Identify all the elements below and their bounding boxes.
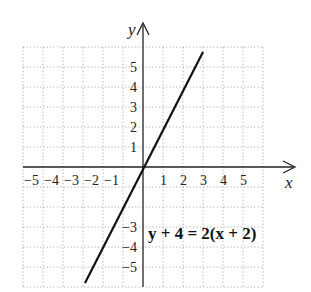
svg-text:5: 5: [240, 173, 247, 188]
svg-text:−5: −5: [24, 173, 39, 188]
svg-text:−5: −5: [122, 260, 137, 275]
svg-text:2: 2: [130, 120, 137, 135]
svg-text:4: 4: [220, 173, 227, 188]
y-axis-label: y: [126, 20, 136, 39]
svg-text:−1: −1: [104, 173, 119, 188]
svg-text:3: 3: [200, 173, 207, 188]
x-axis-label: x: [284, 173, 293, 192]
svg-text:−3: −3: [122, 220, 137, 235]
graph-figure: y x −5 −4 −3 −2 −1 1 2 3 4 5 1 2 3 4 5 −…: [0, 0, 311, 292]
svg-text:1: 1: [160, 173, 167, 188]
equation-label: y + 4 = 2(x + 2): [148, 224, 256, 243]
svg-text:−3: −3: [64, 173, 79, 188]
svg-text:−2: −2: [84, 173, 99, 188]
svg-text:5: 5: [130, 60, 137, 75]
svg-text:−4: −4: [44, 173, 59, 188]
x-axis: [23, 161, 295, 173]
coordinate-plane: y x −5 −4 −3 −2 −1 1 2 3 4 5 1 2 3 4 5 −…: [0, 0, 311, 292]
svg-text:1: 1: [130, 140, 137, 155]
svg-text:2: 2: [180, 173, 187, 188]
svg-text:4: 4: [130, 80, 137, 95]
svg-text:3: 3: [130, 100, 137, 115]
svg-text:−4: −4: [122, 240, 137, 255]
